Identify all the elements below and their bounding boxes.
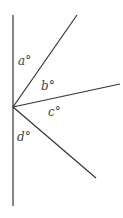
- angle-label-d: d°: [17, 130, 31, 144]
- angle-label-a: a°: [18, 54, 31, 68]
- ray-middle: [13, 84, 120, 107]
- angle-label-c: c°: [48, 105, 61, 119]
- angle-diagram: a° b° c° d°: [0, 0, 123, 218]
- angle-label-b: b°: [41, 79, 55, 93]
